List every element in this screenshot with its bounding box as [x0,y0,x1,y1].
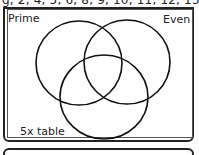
label-five-times-table: 5x table [20,125,65,138]
next-frame [3,148,194,155]
label-prime: Prime [8,12,40,25]
label-even: Even [163,13,190,26]
